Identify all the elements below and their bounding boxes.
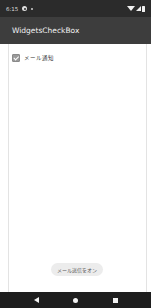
wifi-icon [127,6,135,11]
home-icon[interactable] [73,298,78,303]
checkbox-label: メール通知 [24,54,54,62]
battery-icon [142,6,145,12]
status-time: 6:15 [6,6,18,12]
status-right [127,6,145,12]
app-title: WidgetsCheckBox [12,26,79,35]
toast-text: メール送信をオン [57,266,97,273]
mail-notification-checkbox[interactable] [12,54,20,62]
notification-dot-icon [31,8,33,10]
settings-icon [22,6,27,11]
status-bar: 6:15 [0,0,151,17]
content-area: メール通知 [8,44,147,292]
signal-icon [136,6,141,11]
back-icon[interactable] [34,297,39,303]
mail-notification-checkbox-row[interactable]: メール通知 [12,54,54,62]
recents-icon[interactable] [113,298,118,303]
toast-message: メール送信をオン [51,263,103,276]
status-left: 6:15 [6,6,33,12]
app-bar: WidgetsCheckBox [0,17,151,44]
navigation-bar [0,292,151,308]
